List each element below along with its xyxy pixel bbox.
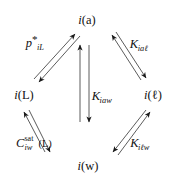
edge-label-lipid-water-sup: sat xyxy=(24,134,33,142)
cycle-diagram: i(a) i(L) i(ℓ) i(w) p*iL Kiaℓ Kiaw Csati… xyxy=(0,0,174,185)
node-lipid: i(L) xyxy=(14,89,33,102)
edge-label-lipid-air: p*iL xyxy=(26,37,45,50)
node-water-phase: (w) xyxy=(81,159,98,173)
edge-label-air-water-sub: iaw xyxy=(100,95,112,104)
edge-label-lipid-water-tail: (L) xyxy=(38,138,51,149)
edge-label-water-octanol-sub: iℓw xyxy=(138,142,149,151)
edge-label-lipid-water-base: C xyxy=(16,136,24,150)
edge-label-lipid-air-sub: iL xyxy=(37,42,44,51)
node-octanol: i(ℓ) xyxy=(144,89,162,102)
node-air: i(a) xyxy=(78,14,95,27)
node-air-phase: (a) xyxy=(82,13,96,27)
edge-air-water-arrows xyxy=(80,45,89,122)
edge-label-water-octanol: Kiℓw xyxy=(130,137,150,150)
edge-label-lipid-water: Csatiw(L) xyxy=(16,137,52,150)
node-lipid-phase: (L) xyxy=(18,88,34,102)
node-octanol-phase: (ℓ) xyxy=(148,88,162,102)
edge-label-lipid-water-sub: iw xyxy=(24,143,32,151)
edge-label-air-octanol: Kiaℓ xyxy=(130,38,148,51)
node-water: i(w) xyxy=(78,160,99,173)
edge-label-air-octanol-sub: iaℓ xyxy=(138,43,148,52)
edge-label-air-water: Kiaw xyxy=(92,90,112,103)
